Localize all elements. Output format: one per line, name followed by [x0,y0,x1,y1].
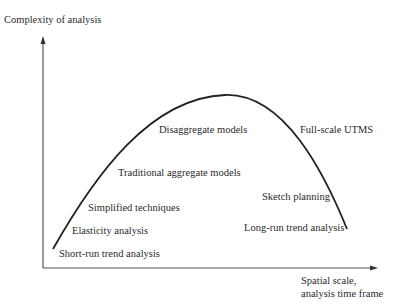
label-full-scale-utms: Full-scale UTMS [300,124,373,136]
label-short-run-trend: Short-run trend analysis [59,248,160,260]
label-long-run-trend: Long-run trend analysis [244,222,344,234]
x-axis-label-line2: analysis time frame [301,288,383,300]
diagram-canvas [0,0,396,306]
label-elasticity: Elasticity analysis [72,225,148,237]
label-disaggregate: Disaggregate models [159,124,247,136]
x-axis-label-line1: Spatial scale, [301,275,356,287]
label-simplified-techniques: Simplified techniques [88,202,180,214]
label-traditional-aggregate: Traditional aggregate models [118,167,241,179]
y-axis-arrow-icon [41,36,46,44]
x-axis-arrow-icon [370,266,378,271]
label-sketch-planning: Sketch planning [262,191,330,203]
y-axis-label: Complexity of analysis [4,14,101,26]
